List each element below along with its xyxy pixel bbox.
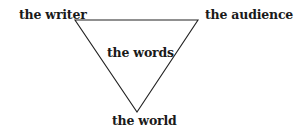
label-words: the words: [107, 46, 174, 60]
label-world: the world: [112, 114, 177, 128]
label-audience: the audience: [205, 8, 293, 22]
label-writer: the writer: [19, 8, 87, 22]
triangle-diagram: the writer the audience the words the wo…: [0, 0, 299, 130]
